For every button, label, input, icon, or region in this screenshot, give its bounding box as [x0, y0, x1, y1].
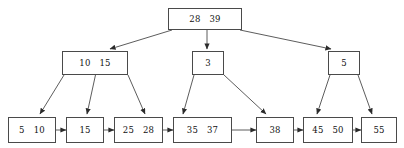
edge-internal-right-to-leaf-6	[317, 75, 330, 114]
node-key: 45	[312, 126, 323, 135]
tree-node-internal-left: 1015	[62, 51, 128, 75]
tree-node-leaf-4: 3537	[173, 117, 232, 143]
edge-root-to-internal-left	[110, 30, 172, 49]
tree-node-leaf-3: 2528	[114, 117, 163, 143]
node-key: 25	[123, 126, 134, 135]
node-key: 55	[373, 126, 384, 135]
tree-node-internal-middle: 3	[192, 51, 224, 75]
node-key: 15	[100, 59, 111, 68]
node-key: 10	[34, 126, 45, 135]
tree-node-leaf-7: 55	[361, 117, 397, 143]
node-key: 3	[205, 59, 211, 68]
node-key: 35	[187, 126, 198, 135]
node-key: 28	[143, 126, 154, 135]
node-key: 38	[269, 126, 280, 135]
node-key: 5	[19, 126, 25, 135]
tree-node-leaf-1: 510	[8, 117, 56, 143]
edge-internal-left-to-leaf-3	[128, 75, 145, 114]
edge-root-to-internal-right	[240, 30, 331, 49]
b-plus-tree-diagram: 2839101535510152528353738455055	[0, 0, 404, 148]
node-key: 37	[207, 126, 218, 135]
edge-internal-left-to-leaf-1	[40, 75, 64, 114]
tree-node-internal-right: 5	[328, 51, 360, 75]
tree-node-leaf-5: 38	[256, 117, 294, 143]
edge-internal-right-to-leaf-7	[358, 75, 372, 114]
edge-internal-middle-to-leaf-5	[224, 75, 266, 114]
node-key: 50	[333, 126, 344, 135]
tree-node-leaf-6: 4550	[303, 117, 353, 143]
node-key: 10	[79, 59, 90, 68]
node-key: 39	[210, 15, 221, 24]
tree-node-root: 2839	[168, 8, 242, 30]
edge-internal-middle-to-leaf-4	[183, 75, 194, 114]
node-key: 5	[341, 59, 347, 68]
node-key: 15	[79, 126, 90, 135]
node-key: 28	[189, 15, 200, 24]
tree-node-leaf-2: 15	[66, 117, 104, 143]
